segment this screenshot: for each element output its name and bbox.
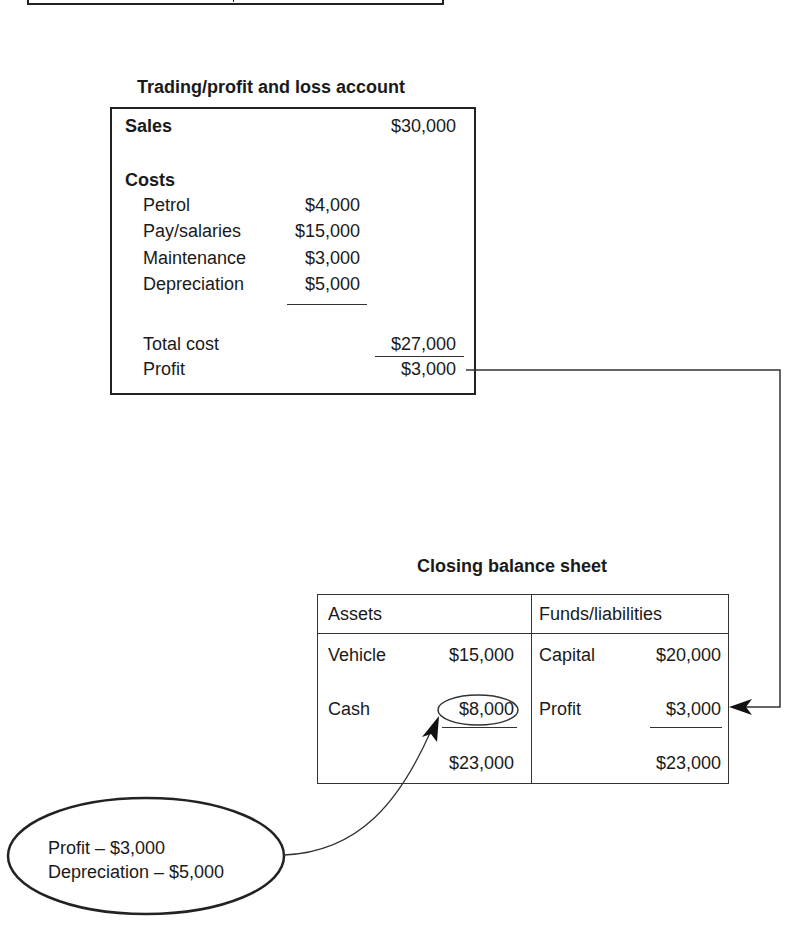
- profit-connector: [466, 370, 780, 715]
- connector-overlay: [0, 0, 795, 927]
- arrowhead-icon: [422, 716, 439, 742]
- cash-connector: [284, 716, 439, 855]
- callout-ellipse: [8, 798, 284, 914]
- cash-highlight-ellipse: [438, 695, 518, 725]
